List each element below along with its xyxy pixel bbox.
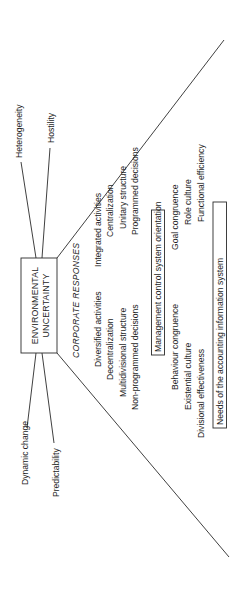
response-left-non-programmed: Non-programmed decisions	[130, 304, 140, 410]
mcs-right-functional-efficiency: Functional efficiency	[196, 144, 206, 222]
mcs-orientation-label: Management control system orientation	[153, 201, 163, 352]
response-right-centralization: Centralization	[105, 184, 115, 237]
connector-heterogeneity	[21, 162, 36, 258]
mcs-right-role-culture: Role culture	[183, 179, 193, 225]
mcs-left-behaviour-congruence: Behaviour congruence	[170, 304, 180, 390]
mcs-left-existential-culture: Existential culture	[183, 342, 193, 410]
connector-dynamic-change	[27, 353, 36, 428]
factor-heterogeneity: Heterogeneity	[14, 104, 24, 158]
diagram-canvas: ENVIRONMENTAL UNCERTAINTY Heterogeneity …	[0, 0, 233, 615]
response-right-programmed: Programmed decisions	[130, 147, 140, 235]
response-right-unitary: Unitary structure	[118, 166, 128, 229]
connector-hostility	[42, 148, 50, 258]
ais-needs-label: Needs of the accounting information syst…	[215, 258, 225, 425]
mcs-right-goal-congruence: Goal congruence	[170, 184, 180, 250]
response-left-diversified: Diversified activities	[93, 292, 103, 367]
response-right-integrated: Integrated activities	[93, 193, 103, 267]
factor-hostility: Hostility	[46, 112, 56, 143]
central-box-line1: ENVIRONMENTAL	[30, 267, 40, 345]
corporate-responses-heading: CORPORATE RESPONSES	[71, 243, 81, 358]
factor-predictability: Predictability	[51, 448, 61, 497]
mcs-left-divisional-effectiveness: Divisional effectiveness	[196, 349, 206, 438]
connector-predictability	[42, 353, 54, 443]
factor-dynamic-change: Dynamic change	[20, 421, 30, 485]
central-box-line2: UNCERTAINTY	[41, 274, 51, 338]
response-left-multidivisional: Multidivisional structure	[118, 307, 128, 397]
response-left-decentralization: Decentralization	[105, 318, 115, 380]
